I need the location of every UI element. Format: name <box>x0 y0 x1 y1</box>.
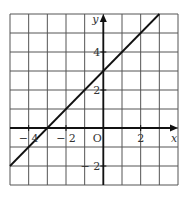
tick-labels: − 4 − 2 2 4 2 − 2 O x y <box>19 13 178 173</box>
y-tick-label-2: 2 <box>93 84 100 97</box>
y-axis-arrow-icon <box>100 14 107 22</box>
origin-label: O <box>93 132 102 145</box>
graph-canvas: − 4 − 2 2 4 2 − 2 O x y <box>0 0 190 202</box>
x-tick-label-neg4: − 4 <box>19 132 39 145</box>
y-tick-label-4: 4 <box>93 46 100 59</box>
y-axis-label: y <box>91 13 99 26</box>
y-tick-label-neg2: − 2 <box>81 160 101 173</box>
x-axis-arrow-icon <box>170 125 178 132</box>
x-axis-label: x <box>171 132 178 145</box>
x-tick-label-2: 2 <box>137 132 144 145</box>
x-tick-label-neg2: − 2 <box>56 132 76 145</box>
